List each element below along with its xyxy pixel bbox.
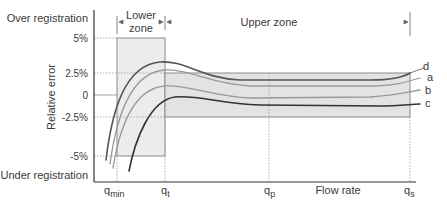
lower-zone-label-line1: Lower bbox=[126, 9, 156, 21]
under-registration-label: Under registration bbox=[1, 169, 88, 181]
y-tick-minus-2-5: -2.5% bbox=[62, 112, 88, 123]
legend-a: a bbox=[427, 71, 434, 83]
error-curve-chart: Over registration Under registration Rel… bbox=[0, 0, 447, 207]
y-tick-5: 5% bbox=[74, 33, 89, 44]
over-registration-label: Over registration bbox=[7, 12, 88, 24]
x-tick-qt: qt bbox=[161, 184, 170, 199]
y-axis-label: Relative error bbox=[45, 64, 57, 130]
y-tick-0: 0 bbox=[82, 90, 88, 101]
legend-c: c bbox=[425, 97, 431, 109]
x-axis-label: Flow rate bbox=[315, 184, 360, 196]
x-tick-qp: qp bbox=[264, 184, 275, 199]
y-tick-2-5: 2.5% bbox=[65, 68, 88, 79]
legend-b: b bbox=[425, 84, 431, 96]
y-tick-minus-5: -5% bbox=[70, 151, 88, 162]
x-tick-qmin: qmin bbox=[104, 184, 125, 199]
lower-zone-label-line2: zone bbox=[129, 22, 153, 34]
upper-zone-label: Upper zone bbox=[241, 16, 298, 28]
x-tick-qs: qs bbox=[404, 184, 415, 199]
